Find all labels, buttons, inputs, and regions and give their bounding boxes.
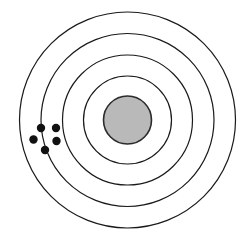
electron-dot-5 (41, 146, 49, 154)
electron-dot-4 (52, 137, 60, 145)
nucleus (104, 96, 152, 144)
atom-diagram-canvas (0, 0, 250, 242)
electron-dot-1 (37, 124, 45, 132)
electron-dot-2 (52, 124, 60, 132)
atomic-model-figure (0, 0, 250, 242)
electron-dot-3 (29, 135, 37, 143)
